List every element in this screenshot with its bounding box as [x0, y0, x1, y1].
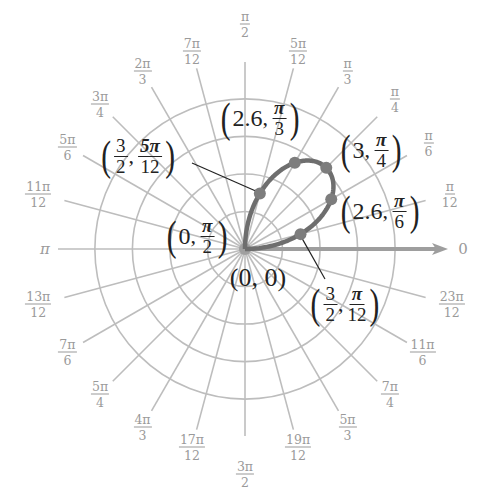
point-p-pi-3 [289, 157, 301, 169]
label-point-pi-2: ( 0 , π2 ) [165, 215, 230, 257]
label-point-pi-3: ( 2.6 , π3 ) [219, 97, 302, 139]
angle-label-numerator: 17π [179, 433, 205, 448]
point-p-pi-12 [294, 228, 306, 240]
angle-label-a225: 5π4 [91, 379, 109, 408]
angle-label-numerator: 7π [381, 379, 399, 394]
angle-label-a75: 5π12 [289, 36, 307, 65]
angle-label-a315: 7π4 [381, 379, 399, 408]
angle-label-a60: π3 [342, 57, 352, 86]
angle-label-numerator: 3π [236, 460, 254, 475]
angle-label-denominator: 12 [442, 195, 458, 209]
angle-label-numerator: π [423, 129, 433, 144]
angle-label-numerator: 23π [439, 290, 465, 305]
angle-label-numerator: 11π [25, 179, 51, 194]
angle-label-numerator: 5π [289, 36, 307, 51]
angle-label-a180: π [40, 240, 50, 258]
angle-label-numerator: 13π [25, 290, 51, 305]
point-p-pi-4 [320, 162, 332, 174]
angle-label-a300: 5π3 [338, 412, 356, 441]
angle-label-a150: 5π6 [58, 132, 76, 161]
angle-label-numerator: 11π [409, 337, 435, 352]
angle-label-a330: 11π6 [409, 337, 435, 366]
angle-label-denominator: 4 [391, 100, 399, 114]
angle-label-numerator: 19π [285, 433, 311, 448]
angle-label-numerator: 7π [183, 36, 201, 51]
angle-label-a345: 23π12 [439, 290, 465, 319]
angle-label-denominator: 3 [344, 72, 352, 86]
label-point-5pi-12: ( 32 , 5π12 ) [99, 135, 177, 177]
angle-label-denominator: 12 [290, 448, 306, 462]
radial-line [245, 68, 293, 249]
radial-line [113, 249, 245, 381]
angle-label-a45: π4 [390, 85, 400, 114]
angle-label-denominator: 6 [63, 352, 71, 366]
angle-label-a0: 0 [458, 240, 468, 258]
angle-label-denominator: 4 [96, 394, 104, 408]
angle-label-denominator: 12 [444, 305, 460, 319]
angle-label-numerator: 4π [133, 412, 151, 427]
angle-label-denominator: 4 [386, 394, 394, 408]
angle-label-numerator: 7π [58, 337, 76, 352]
polar-diagram: 0π12π6π4π35π12π27π122π33π45π611π12π13π12… [0, 0, 496, 499]
angle-label-a15: π12 [442, 180, 458, 209]
leader-line-pi-12 [302, 239, 325, 279]
point-p-pi-6 [325, 193, 337, 205]
angle-label-a90: π2 [240, 10, 250, 39]
angle-label-numerator: π [240, 10, 250, 25]
angle-label-a120: 2π3 [133, 57, 151, 86]
label-point-pi-6: ( 2.6 , π6 ) [339, 190, 422, 232]
polar-grid [0, 0, 496, 499]
angle-label-numerator: π [445, 180, 455, 195]
angle-label-numerator: 5π [338, 412, 356, 427]
label-point-pi-4: ( 3 , π4 ) [339, 129, 404, 171]
angle-label-denominator: 6 [419, 352, 427, 366]
angle-label-numerator: π [390, 85, 400, 100]
angle-label-numerator: 2π [133, 57, 151, 72]
angle-label-denominator: 6 [63, 147, 71, 161]
angle-label-denominator: 12 [30, 194, 46, 208]
angle-label-denominator: 12 [290, 51, 306, 65]
label-origin: (0, 0) [230, 263, 286, 293]
angle-label-denominator: 2 [241, 25, 249, 39]
angle-label-a270: 3π2 [236, 460, 254, 489]
angle-label-denominator: 4 [96, 105, 104, 119]
angle-label-a105: 7π12 [183, 36, 201, 65]
angle-label-a210: 7π6 [58, 337, 76, 366]
angle-label-denominator: 12 [184, 448, 200, 462]
angle-label-denominator: 12 [30, 305, 46, 319]
angle-label-a255: 17π12 [179, 433, 205, 462]
angle-label-a135: 3π4 [91, 90, 109, 119]
angle-label-denominator: 3 [139, 427, 147, 441]
point-p-5pi-12 [254, 188, 266, 200]
angle-label-denominator: 6 [425, 144, 433, 158]
angle-label-denominator: 3 [139, 72, 147, 86]
angle-label-denominator: 3 [344, 427, 352, 441]
angle-label-a30: π6 [423, 129, 433, 158]
angle-label-denominator: 12 [184, 51, 200, 65]
angle-label-a240: 4π3 [133, 412, 151, 441]
angle-label-numerator: 5π [58, 132, 76, 147]
radial-line [83, 249, 245, 343]
angle-label-denominator: 2 [241, 475, 249, 489]
angle-label-numerator: π [342, 57, 352, 72]
angle-label-numerator: 3π [91, 90, 109, 105]
label-point-pi-12: ( 32 , π12 ) [309, 283, 382, 325]
angle-label-a165: 11π12 [25, 179, 51, 208]
angle-label-a195: 13π12 [25, 290, 51, 319]
angle-label-a285: 19π12 [285, 433, 311, 462]
angle-label-numerator: 5π [91, 379, 109, 394]
